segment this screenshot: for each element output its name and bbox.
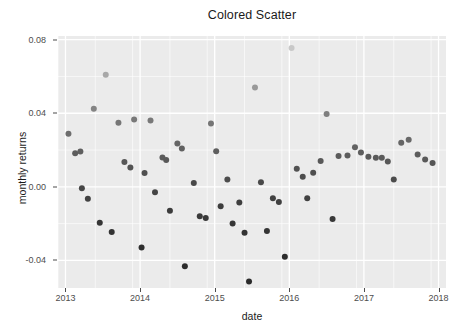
scatter-point [318, 158, 324, 164]
y-axis-tick-mark [53, 186, 57, 187]
scatter-point [167, 208, 173, 214]
scatter-point [242, 230, 248, 236]
scatter-point [121, 159, 127, 165]
scatter-point [365, 154, 371, 160]
scatter-point [179, 146, 185, 152]
x-axis-tick-label: 2017 [334, 293, 394, 303]
scatter-point [142, 170, 148, 176]
plot-panel [58, 36, 446, 288]
x-axis-tick-mark [65, 288, 66, 292]
plot-canvas [58, 36, 446, 288]
x-axis-tick-mark [289, 288, 290, 292]
scatter-point [289, 45, 295, 51]
scatter-point [115, 120, 121, 126]
scatter-point [330, 216, 336, 222]
scatter-point [282, 254, 288, 260]
y-axis-tick-label: -0.04 [0, 255, 46, 265]
x-axis-tick-label: 2014 [110, 293, 170, 303]
scatter-point [109, 229, 115, 235]
y-axis-tick-mark [53, 39, 57, 40]
scatter-point [163, 157, 169, 163]
scatter-point [191, 180, 197, 186]
scatter-point [264, 228, 270, 234]
scatter-point [127, 165, 133, 171]
y-axis-label: monthly returns [16, 108, 28, 228]
x-axis-tick-label: 2013 [35, 293, 95, 303]
scatter-point [345, 153, 351, 159]
scatter-point [224, 176, 230, 182]
scatter-point [85, 196, 91, 202]
scatter-point [152, 189, 158, 195]
scatter-point [276, 199, 282, 205]
scatter-plot-figure: Colored Scatter -0.040.000.040.082013201… [0, 0, 466, 335]
scatter-point [310, 170, 316, 176]
x-axis-tick-label: 2016 [259, 293, 319, 303]
scatter-point [294, 166, 300, 172]
scatter-point [373, 155, 379, 161]
scatter-point [385, 158, 391, 164]
scatter-point [258, 179, 264, 185]
scatter-point [72, 150, 78, 156]
scatter-point [422, 157, 428, 163]
x-axis-tick-mark [215, 288, 216, 292]
x-axis-tick-mark [140, 288, 141, 292]
x-axis-tick-label: 2015 [185, 293, 245, 303]
scatter-point [230, 221, 236, 227]
scatter-point [91, 106, 97, 112]
x-axis-tick-mark [439, 288, 440, 292]
scatter-point [65, 131, 71, 137]
scatter-point [197, 213, 203, 219]
scatter-point [324, 111, 330, 117]
scatter-point [213, 148, 219, 154]
scatter-point [352, 144, 358, 150]
scatter-point [182, 263, 188, 269]
scatter-point [430, 160, 436, 166]
scatter-point [246, 279, 252, 285]
scatter-point [103, 72, 109, 78]
x-axis-tick-label: 2018 [409, 293, 466, 303]
scatter-point [398, 140, 404, 146]
scatter-point [218, 203, 224, 209]
scatter-point [79, 185, 85, 191]
scatter-point [336, 153, 342, 159]
x-axis-tick-mark [364, 288, 365, 292]
scatter-point [270, 195, 276, 201]
y-axis-tick-label: 0.08 [0, 35, 46, 45]
scatter-point [391, 176, 397, 182]
scatter-point [358, 150, 364, 156]
scatter-point [252, 85, 258, 91]
scatter-point [208, 121, 214, 127]
scatter-point [203, 215, 209, 221]
scatter-point [139, 245, 145, 251]
x-axis-label: date [58, 310, 446, 322]
scatter-point [379, 155, 385, 161]
y-axis-tick-mark [53, 260, 57, 261]
scatter-point [77, 149, 83, 155]
scatter-point [304, 195, 310, 201]
scatter-point [236, 199, 242, 205]
scatter-point [97, 220, 103, 226]
scatter-point [415, 151, 421, 157]
scatter-point [174, 141, 180, 147]
scatter-point [131, 117, 137, 123]
scatter-point [300, 174, 306, 180]
cropped-text-artifact [6, 0, 206, 7]
scatter-point [148, 118, 154, 124]
chart-title: Colored Scatter [58, 8, 446, 22]
y-axis-tick-mark [53, 113, 57, 114]
scatter-point [406, 137, 412, 143]
